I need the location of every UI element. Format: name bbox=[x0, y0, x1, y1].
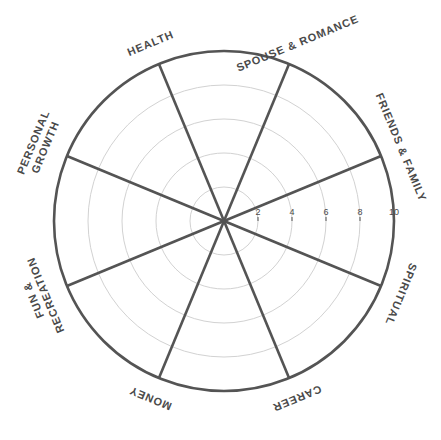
scale-label-4: 4 bbox=[289, 207, 294, 217]
scale-label-2: 2 bbox=[255, 207, 260, 217]
wheel-graphics bbox=[0, 0, 441, 440]
scale-label-6: 6 bbox=[323, 207, 328, 217]
scale-label-8: 8 bbox=[357, 207, 362, 217]
tick-mark-group bbox=[258, 217, 394, 221]
wheel-of-life-diagram: SPOUSE & ROMANCEFRIENDS & FAMILYSPIRITUA… bbox=[0, 0, 441, 440]
spoke-line-group bbox=[67, 64, 381, 378]
scale-label-10: 10 bbox=[389, 207, 399, 217]
